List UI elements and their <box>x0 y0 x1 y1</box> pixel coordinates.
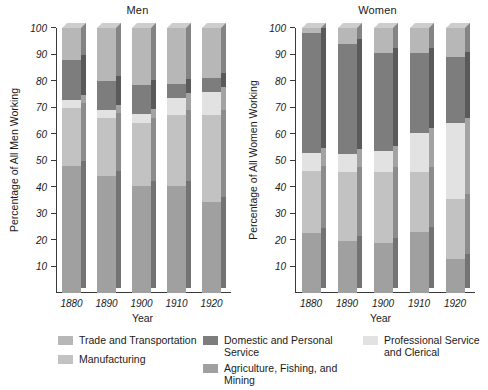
bar-segment-women-1910-4 <box>410 28 429 53</box>
bar-segment-women-1920-2 <box>446 123 465 199</box>
y-tick-label-men-40: 40 <box>36 181 47 192</box>
bar-group-women-1900[interactable]: 1900 <box>374 28 393 293</box>
legend-swatch-manufacturing <box>58 355 73 364</box>
bar-segment-men-1880-2 <box>62 100 81 108</box>
y-tick-label-men-30: 30 <box>36 208 47 219</box>
panel-women: Women Percentage of All Women Working 10… <box>243 0 488 330</box>
bar-side-face-men-1920 <box>221 23 226 288</box>
x-axis-label-women: Year <box>243 312 488 324</box>
bar-side-segment-men-1890-2 <box>116 105 121 113</box>
bar-men-1900[interactable] <box>132 28 151 293</box>
bar-group-women-1910[interactable]: 1910 <box>410 28 429 293</box>
plot-area-women: 102030405060708090100 188018901900191019… <box>295 28 475 293</box>
bar-segment-women-1920-3 <box>446 57 465 123</box>
bar-segment-men-1890-0 <box>97 176 116 293</box>
legend-item-professional: Professional Service and Clerical <box>363 334 488 358</box>
bar-group-men-1890[interactable]: 1890 <box>97 28 116 293</box>
bar-side-segment-men-1900-4 <box>151 23 156 80</box>
bar-segment-women-1900-0 <box>374 243 393 293</box>
bar-segment-men-1920-0 <box>202 202 221 293</box>
bar-segment-women-1880-4 <box>302 28 321 33</box>
bar-segment-men-1900-1 <box>132 123 151 185</box>
y-tick-label-men-50: 50 <box>36 155 47 166</box>
bar-segment-men-1880-3 <box>62 60 81 100</box>
bar-top-face-women-1880 <box>302 23 321 28</box>
bar-segment-women-1900-3 <box>374 53 393 151</box>
bar-top-face-men-1880 <box>62 23 81 28</box>
bar-segment-women-1920-1 <box>446 199 465 259</box>
bar-men-1920[interactable] <box>202 28 221 293</box>
bar-segment-women-1880-0 <box>302 233 321 293</box>
bar-side-face-women-1890 <box>357 23 362 288</box>
bar-side-segment-men-1890-0 <box>116 171 121 288</box>
bar-top-face-women-1920 <box>446 23 465 28</box>
bar-side-segment-women-1910-3 <box>429 48 434 128</box>
y-tick-label-women-100: 100 <box>269 22 286 33</box>
legend-swatch-professional <box>363 336 378 345</box>
legend-label-professional: Professional Service and Clerical <box>384 334 480 358</box>
legend-label-trade: Trade and Transportation <box>79 334 197 346</box>
panel-title-women: Women <box>243 4 488 16</box>
bar-side-segment-men-1900-1 <box>151 118 156 180</box>
x-tick-label-men-1910: 1910 <box>165 298 187 309</box>
bar-side-segment-women-1900-3 <box>393 48 398 146</box>
bar-men-1880[interactable] <box>62 28 81 293</box>
y-tick-label-men-80: 80 <box>36 75 47 86</box>
bar-women-1900[interactable] <box>374 28 393 293</box>
bar-segment-men-1890-2 <box>97 110 116 118</box>
bar-side-segment-men-1910-1 <box>186 110 191 180</box>
bar-side-segment-men-1880-0 <box>81 161 86 288</box>
bar-segment-men-1900-0 <box>132 186 151 293</box>
x-tick-label-men-1900: 1900 <box>130 298 152 309</box>
bar-group-women-1920[interactable]: 1920 <box>446 28 465 293</box>
bar-top-face-men-1890 <box>97 23 116 28</box>
y-tick-label-women-60: 60 <box>275 128 286 139</box>
legend-item-agriculture: Agriculture, Fishing, and Mining <box>203 362 363 386</box>
bar-women-1910[interactable] <box>410 28 429 293</box>
bar-side-segment-men-1910-3 <box>186 79 191 94</box>
bar-side-segment-women-1910-0 <box>429 227 434 288</box>
bar-women-1890[interactable] <box>338 28 357 293</box>
bar-side-segment-men-1920-1 <box>221 110 226 196</box>
y-tick-label-men-70: 70 <box>36 102 47 113</box>
y-tick-label-men-100: 100 <box>30 22 47 33</box>
bar-side-segment-women-1920-1 <box>465 194 470 254</box>
bar-side-segment-men-1890-1 <box>116 113 121 171</box>
bar-segment-women-1910-0 <box>410 232 429 293</box>
legend-label-professional-line1: Professional Service <box>384 334 480 346</box>
bar-top-face-men-1920 <box>202 23 221 28</box>
bar-group-women-1890[interactable]: 1890 <box>338 28 357 293</box>
bar-women-1920[interactable] <box>446 28 465 293</box>
bar-group-men-1910[interactable]: 1910 <box>167 28 186 293</box>
bars-women: 18801890190019101920 <box>295 28 475 293</box>
bar-side-segment-women-1910-2 <box>429 128 434 168</box>
bar-segment-women-1890-2 <box>338 154 357 173</box>
y-tick-label-women-50: 50 <box>275 155 286 166</box>
bar-segment-men-1920-3 <box>202 78 221 91</box>
legend-label-professional-line2: and Clerical <box>384 346 439 358</box>
bar-women-1880[interactable] <box>302 28 321 293</box>
bar-side-segment-men-1920-0 <box>221 197 226 288</box>
bar-side-segment-women-1880-0 <box>321 228 326 288</box>
bar-top-face-women-1910 <box>410 23 429 28</box>
bar-side-segment-men-1900-3 <box>151 80 156 109</box>
x-tick-label-men-1890: 1890 <box>95 298 117 309</box>
bar-side-segment-men-1920-2 <box>221 87 226 111</box>
bar-segment-men-1890-1 <box>97 118 116 176</box>
bar-group-men-1900[interactable]: 1900 <box>132 28 151 293</box>
bar-segment-women-1890-4 <box>338 28 357 44</box>
bar-segment-men-1920-2 <box>202 92 221 116</box>
bar-group-men-1880[interactable]: 1880 <box>62 28 81 293</box>
bar-segment-men-1910-1 <box>167 115 186 185</box>
bar-side-segment-women-1900-2 <box>393 146 398 167</box>
bar-group-men-1920[interactable]: 1920 <box>202 28 221 293</box>
bar-men-1890[interactable] <box>97 28 116 293</box>
bar-segment-men-1890-4 <box>97 28 116 81</box>
y-axis-label-men: Percentage of All Men Working <box>8 88 20 232</box>
bar-group-women-1880[interactable]: 1880 <box>302 28 321 293</box>
x-tick-label-women-1890: 1890 <box>336 298 358 309</box>
legend-column-3: Professional Service and Clerical <box>363 334 488 362</box>
bar-men-1910[interactable] <box>167 28 186 293</box>
bar-segment-men-1880-0 <box>62 166 81 293</box>
bar-side-segment-men-1910-4 <box>186 23 191 79</box>
